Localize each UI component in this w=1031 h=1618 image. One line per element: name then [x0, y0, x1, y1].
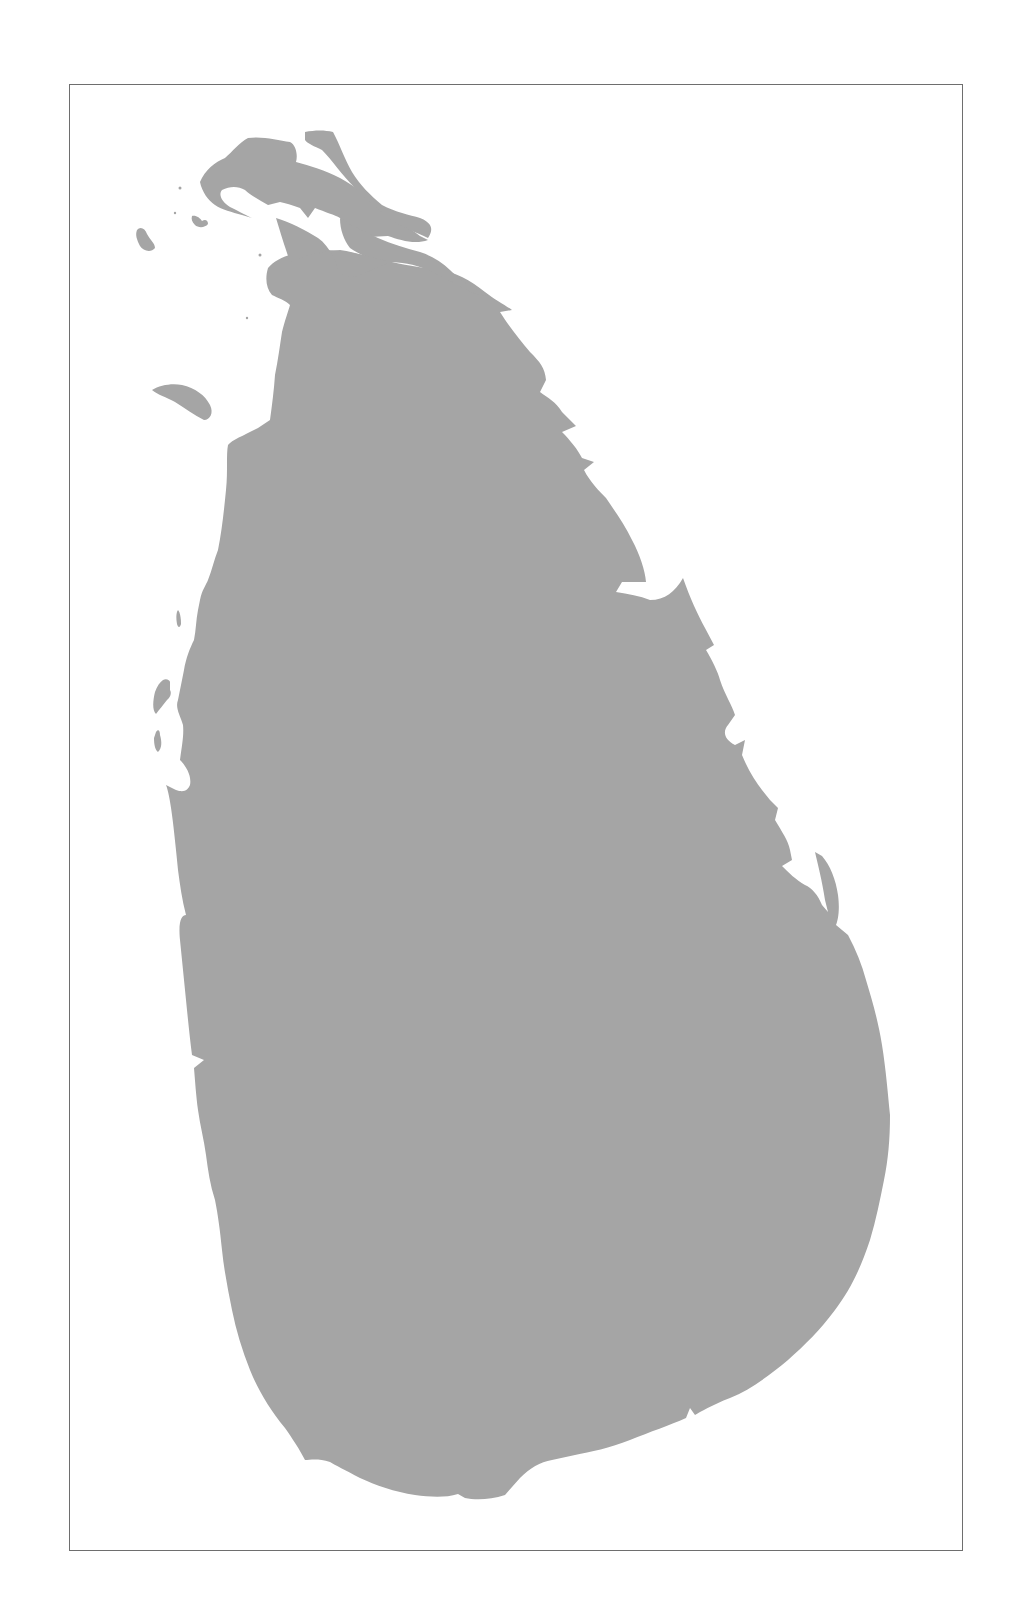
jaffna-peninsula: [200, 137, 428, 242]
islet-small-1: [192, 216, 208, 227]
islet-dot-1: [179, 187, 182, 190]
islet-delft: [136, 228, 155, 251]
sri-lanka-map: [0, 0, 1031, 1618]
kalpitiya-islet-1: [176, 610, 181, 627]
islet-dot-4: [246, 317, 248, 319]
main-island: [166, 250, 890, 1499]
kalpitiya-islet-3: [154, 730, 161, 752]
islet-dot-3: [259, 254, 262, 257]
islet-dot-2: [174, 212, 176, 214]
mannar-island: [152, 384, 212, 420]
kalpitiya-islet-2: [153, 679, 171, 714]
